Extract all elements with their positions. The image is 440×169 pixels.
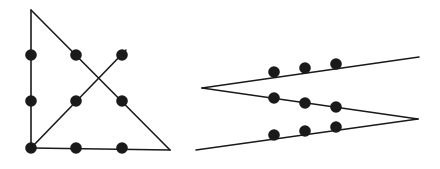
- bottom-edge: [31, 148, 170, 150]
- dot-lower-row-right: [330, 121, 342, 133]
- dot-left-bottom-corner: [25, 142, 37, 154]
- dot-top-middle: [70, 49, 82, 61]
- dot-bottom-middle-right: [116, 142, 128, 154]
- dot-middle-row-middle: [299, 97, 311, 109]
- dot-middle-row-left: [268, 92, 280, 104]
- dot-top-right: [116, 49, 128, 61]
- dot-left-middle: [25, 95, 37, 107]
- dot-upper-row-middle: [299, 62, 311, 74]
- dot-upper-row-right: [330, 58, 342, 70]
- dot-bottom-middle-left: [70, 142, 82, 154]
- dot-center-right: [116, 95, 128, 107]
- figure-svg-root: [0, 0, 440, 169]
- dot-center-left: [70, 95, 82, 107]
- upper-arm-top-right-to-left-vertex: [202, 57, 419, 88]
- zigzag-chevron-with-dot-grid: [196, 57, 419, 150]
- dot-lower-row-middle: [299, 125, 311, 137]
- triangle-with-crossing-diagonals: [25, 10, 170, 154]
- dot-upper-row-left: [268, 66, 280, 78]
- dot-middle-row-right: [330, 101, 342, 113]
- hypotenuse-apex-to-bottom-right: [31, 10, 170, 150]
- dot-lower-row-left: [268, 129, 280, 141]
- figure-canvas: [0, 0, 440, 169]
- dot-left-upper: [25, 49, 37, 61]
